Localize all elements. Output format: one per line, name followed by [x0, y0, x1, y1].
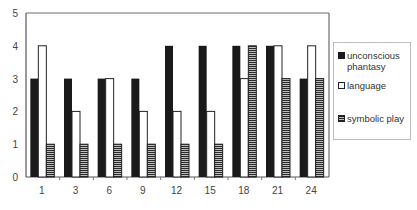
bar-language-12: [173, 111, 181, 177]
bar-language-21: [274, 46, 282, 177]
bar-symbolic-play-15: [215, 144, 223, 177]
bar-symbolic-play-1: [46, 144, 54, 177]
bar-unconscious-phantasy-12: [165, 46, 173, 177]
bar-unconscious-phantasy-15: [199, 46, 207, 177]
x-tick-label: 21: [272, 185, 284, 196]
y-tick-label: 3: [12, 74, 18, 85]
bar-symbolic-play-21: [282, 79, 290, 177]
legend-label: language: [347, 80, 386, 91]
bar-unconscious-phantasy-1: [30, 79, 38, 177]
bar-language-3: [72, 111, 80, 177]
y-tick-label: 1: [12, 139, 18, 150]
x-tick-label: 9: [140, 185, 146, 196]
bar-unconscious-phantasy-6: [98, 79, 106, 177]
bar-language-6: [106, 79, 114, 177]
bar-unconscious-phantasy-24: [300, 79, 308, 177]
bar-symbolic-play-24: [316, 79, 324, 177]
bar-language-15: [207, 111, 215, 177]
legend-label: unconscious phantasy: [347, 50, 400, 72]
bar-symbolic-play-12: [181, 144, 189, 177]
legend-label-line1: unconscious: [347, 50, 400, 61]
bar-unconscious-phantasy-9: [131, 79, 139, 177]
legend-item-language: language: [338, 80, 386, 91]
x-tick-label: 18: [238, 185, 250, 196]
y-tick-label: 0: [12, 172, 18, 183]
bar-symbolic-play-9: [147, 144, 155, 177]
x-tick-label: 1: [39, 185, 45, 196]
bar-language-18: [240, 79, 248, 177]
bar-language-9: [139, 111, 147, 177]
y-tick-label: 4: [12, 41, 18, 52]
x-tick-label: 6: [106, 185, 112, 196]
bar-language-24: [308, 46, 316, 177]
bar-symbolic-play-3: [80, 144, 88, 177]
legend-item-unconscious-phantasy: unconscious phantasy: [338, 50, 400, 72]
bar-unconscious-phantasy-18: [232, 46, 240, 177]
bar-symbolic-play-6: [114, 144, 122, 177]
bar-symbolic-play-18: [248, 46, 256, 177]
bar-unconscious-phantasy-3: [64, 79, 72, 177]
legend-item-symbolic-play: symbolic play: [338, 113, 404, 124]
solid-black-swatch-icon: [338, 52, 345, 59]
x-tick-label: 12: [171, 185, 183, 196]
x-tick-label: 15: [205, 185, 217, 196]
plot-area: 01234513691215182124: [12, 8, 329, 196]
hatched-swatch-icon: [338, 115, 345, 122]
legend-label-line2: phantasy: [347, 61, 386, 72]
white-outline-swatch-icon: [338, 82, 345, 89]
y-tick-label: 2: [12, 106, 18, 117]
x-tick-label: 3: [73, 185, 79, 196]
bar-unconscious-phantasy-21: [266, 46, 274, 177]
x-tick-label: 24: [306, 185, 318, 196]
legend: unconscious phantasy language symbolic p…: [333, 42, 411, 140]
y-tick-label: 5: [12, 8, 18, 19]
bar-language-1: [38, 46, 46, 177]
legend-label: symbolic play: [347, 113, 404, 124]
